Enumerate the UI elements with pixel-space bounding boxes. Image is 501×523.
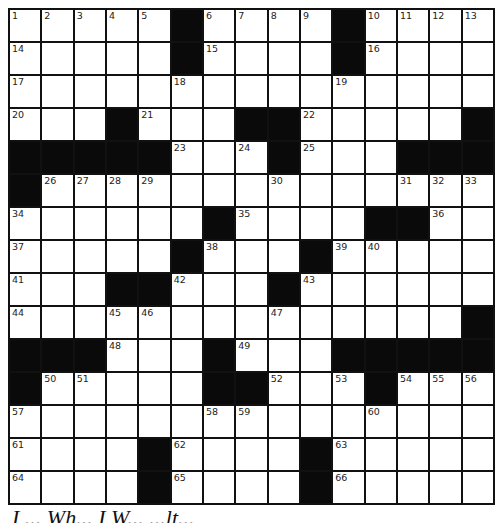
grid-cell[interactable]: [366, 109, 396, 140]
grid-cell[interactable]: [139, 43, 169, 74]
grid-cell[interactable]: [139, 208, 169, 239]
grid-cell[interactable]: 18: [172, 76, 202, 107]
grid-cell[interactable]: [236, 43, 266, 74]
grid-cell[interactable]: [42, 274, 72, 305]
grid-cell[interactable]: [42, 76, 72, 107]
grid-cell[interactable]: [42, 241, 72, 272]
grid-cell[interactable]: [398, 109, 428, 140]
grid-cell[interactable]: 45: [107, 307, 137, 338]
grid-cell[interactable]: [301, 340, 331, 371]
grid-cell[interactable]: 59: [236, 406, 266, 437]
grid-cell[interactable]: [333, 175, 363, 206]
grid-cell[interactable]: 66: [333, 472, 363, 503]
grid-cell[interactable]: [139, 406, 169, 437]
grid-cell[interactable]: [333, 274, 363, 305]
grid-cell[interactable]: 41: [10, 274, 40, 305]
grid-cell[interactable]: [269, 406, 299, 437]
grid-cell[interactable]: [236, 76, 266, 107]
grid-cell[interactable]: 19: [333, 76, 363, 107]
grid-cell[interactable]: [463, 439, 493, 470]
grid-cell[interactable]: 43: [301, 274, 331, 305]
grid-cell[interactable]: [172, 340, 202, 371]
grid-cell[interactable]: 42: [172, 274, 202, 305]
grid-cell[interactable]: [366, 142, 396, 173]
grid-cell[interactable]: 54: [398, 373, 428, 404]
grid-cell[interactable]: [139, 373, 169, 404]
grid-cell[interactable]: 13: [463, 10, 493, 41]
grid-cell[interactable]: 49: [236, 340, 266, 371]
grid-cell[interactable]: 14: [10, 43, 40, 74]
grid-cell[interactable]: [301, 43, 331, 74]
grid-cell[interactable]: [236, 241, 266, 272]
grid-cell[interactable]: [398, 76, 428, 107]
grid-cell[interactable]: 31: [398, 175, 428, 206]
grid-cell[interactable]: [430, 472, 460, 503]
grid-cell[interactable]: [269, 439, 299, 470]
grid-cell[interactable]: [430, 439, 460, 470]
grid-cell[interactable]: 48: [107, 340, 137, 371]
grid-cell[interactable]: [430, 43, 460, 74]
grid-cell[interactable]: 21: [139, 109, 169, 140]
grid-cell[interactable]: 40: [366, 241, 396, 272]
grid-cell[interactable]: [236, 472, 266, 503]
grid-cell[interactable]: 56: [463, 373, 493, 404]
grid-cell[interactable]: [204, 175, 234, 206]
grid-cell[interactable]: 52: [269, 373, 299, 404]
grid-cell[interactable]: 60: [366, 406, 396, 437]
grid-cell[interactable]: [366, 274, 396, 305]
grid-cell[interactable]: [398, 406, 428, 437]
grid-cell[interactable]: [75, 109, 105, 140]
grid-cell[interactable]: [333, 208, 363, 239]
grid-cell[interactable]: [236, 175, 266, 206]
grid-cell[interactable]: 47: [269, 307, 299, 338]
grid-cell[interactable]: 53: [333, 373, 363, 404]
grid-cell[interactable]: [430, 109, 460, 140]
grid-cell[interactable]: [430, 406, 460, 437]
grid-cell[interactable]: [398, 439, 428, 470]
grid-cell[interactable]: 1: [10, 10, 40, 41]
grid-cell[interactable]: 29: [139, 175, 169, 206]
grid-cell[interactable]: [75, 439, 105, 470]
grid-cell[interactable]: [172, 406, 202, 437]
grid-cell[interactable]: [139, 241, 169, 272]
grid-cell[interactable]: 46: [139, 307, 169, 338]
grid-cell[interactable]: [107, 76, 137, 107]
grid-cell[interactable]: 8: [269, 10, 299, 41]
grid-cell[interactable]: 39: [333, 241, 363, 272]
grid-cell[interactable]: 2: [42, 10, 72, 41]
grid-cell[interactable]: 33: [463, 175, 493, 206]
grid-cell[interactable]: [75, 43, 105, 74]
grid-cell[interactable]: [333, 307, 363, 338]
grid-cell[interactable]: [107, 439, 137, 470]
grid-cell[interactable]: [204, 76, 234, 107]
grid-cell[interactable]: [75, 76, 105, 107]
grid-cell[interactable]: 38: [204, 241, 234, 272]
grid-cell[interactable]: [398, 43, 428, 74]
grid-cell[interactable]: 50: [42, 373, 72, 404]
grid-cell[interactable]: [107, 43, 137, 74]
grid-cell[interactable]: [107, 208, 137, 239]
grid-cell[interactable]: [172, 109, 202, 140]
grid-cell[interactable]: [42, 208, 72, 239]
grid-cell[interactable]: [139, 76, 169, 107]
grid-cell[interactable]: [398, 274, 428, 305]
grid-cell[interactable]: 25: [301, 142, 331, 173]
grid-cell[interactable]: [107, 241, 137, 272]
grid-cell[interactable]: 32: [430, 175, 460, 206]
grid-cell[interactable]: [42, 406, 72, 437]
grid-cell[interactable]: [75, 307, 105, 338]
grid-cell[interactable]: 65: [172, 472, 202, 503]
grid-cell[interactable]: [204, 307, 234, 338]
grid-cell[interactable]: [172, 208, 202, 239]
grid-cell[interactable]: [398, 472, 428, 503]
grid-cell[interactable]: [107, 406, 137, 437]
grid-cell[interactable]: [236, 439, 266, 470]
grid-cell[interactable]: 51: [75, 373, 105, 404]
grid-cell[interactable]: [366, 76, 396, 107]
grid-cell[interactable]: [172, 307, 202, 338]
grid-cell[interactable]: [463, 43, 493, 74]
grid-cell[interactable]: [430, 76, 460, 107]
grid-cell[interactable]: [430, 307, 460, 338]
grid-cell[interactable]: [204, 439, 234, 470]
grid-cell[interactable]: 37: [10, 241, 40, 272]
